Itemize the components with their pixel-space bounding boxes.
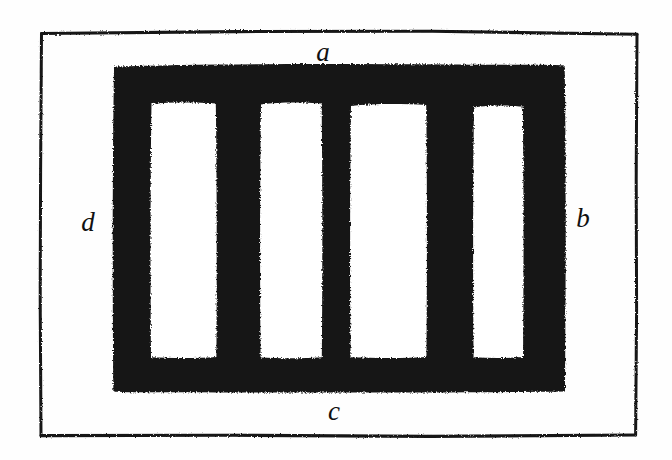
comb-slot [473, 106, 523, 358]
edge-label-b: b [576, 205, 590, 232]
comb-slot [350, 104, 427, 358]
comb-slot [260, 102, 322, 358]
comb-slot [151, 103, 217, 359]
black-comb-block [113, 64, 566, 393]
edge-label-c: c [328, 398, 340, 425]
edge-label-a: a [316, 39, 330, 66]
edge-label-d: d [81, 209, 95, 236]
figure-canvas: a b c d [0, 0, 672, 460]
figure-drawing [0, 0, 672, 460]
